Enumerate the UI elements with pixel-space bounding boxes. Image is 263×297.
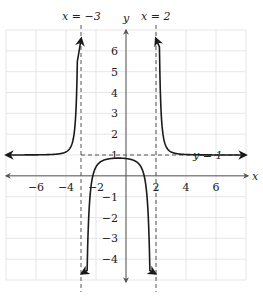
svg-text:2: 2 xyxy=(111,128,118,141)
y-axis-label: y xyxy=(122,12,130,25)
svg-text:3: 3 xyxy=(111,107,118,120)
svg-text:−6: −6 xyxy=(28,181,44,194)
svg-text:4: 4 xyxy=(183,181,190,194)
asymptote-label-left: x = −3 xyxy=(62,10,101,23)
svg-text:6: 6 xyxy=(213,181,220,194)
x-axis-label: x xyxy=(252,170,259,183)
svg-text:−1: −1 xyxy=(102,191,118,204)
svg-text:−3: −3 xyxy=(102,232,118,245)
svg-text:2: 2 xyxy=(153,181,160,194)
rational-function-graph: −6−4−2246−4−3−2−1123456 x = −3 x = 2 y x… xyxy=(0,0,263,297)
svg-text:−4: −4 xyxy=(58,181,74,194)
asymptote-label-horizontal: y = 1 xyxy=(192,149,222,162)
svg-text:6: 6 xyxy=(111,45,118,58)
svg-text:1: 1 xyxy=(111,149,118,162)
svg-text:−4: −4 xyxy=(102,253,118,266)
svg-text:4: 4 xyxy=(111,87,118,100)
asymptote-label-right: x = 2 xyxy=(141,10,170,23)
svg-text:−2: −2 xyxy=(102,212,118,225)
svg-text:5: 5 xyxy=(111,66,118,79)
